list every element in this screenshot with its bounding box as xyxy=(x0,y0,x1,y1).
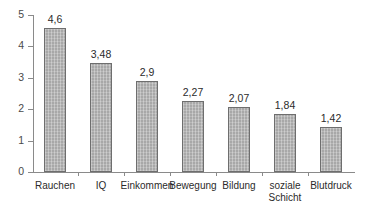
bar-rauchen xyxy=(44,28,66,172)
bar-chart: 5 4 3 2 1 0 xyxy=(0,0,366,213)
y-tick-label-4: 4 xyxy=(0,40,24,50)
y-tick-label-5: 5 xyxy=(0,9,24,19)
bar-bildung xyxy=(228,107,250,172)
x-tick-4 xyxy=(216,172,217,176)
bar-soziale-schicht xyxy=(274,114,296,172)
y-tick-label-3: 3 xyxy=(0,72,24,82)
x-tick-2 xyxy=(124,172,125,176)
bar-value-einkommen: 2,9 xyxy=(120,67,174,78)
y-tick-1: 1 xyxy=(0,141,33,142)
x-label-blutdruck: Blutdruck xyxy=(295,180,366,192)
bar-value-soziale-schicht: 1,84 xyxy=(258,100,312,111)
bar-iq xyxy=(90,63,112,172)
bar-value-iq: 3,48 xyxy=(74,49,128,60)
plot-area: 5 4 3 2 1 0 xyxy=(0,0,366,213)
y-tick-3: 3 xyxy=(0,78,33,79)
x-tick-3 xyxy=(170,172,171,176)
x-axis-line xyxy=(33,172,355,173)
y-tick-0: 0 xyxy=(0,172,33,173)
x-label-soziale-schicht-line-2: Schicht xyxy=(249,192,321,204)
bar-bewegung xyxy=(182,101,204,172)
bar-einkommen xyxy=(136,81,158,172)
x-tick-1 xyxy=(78,172,79,176)
y-axis-line xyxy=(33,15,34,173)
y-tick-label-2: 2 xyxy=(0,103,24,113)
x-tick-5 xyxy=(262,172,263,176)
bar-value-blutdruck: 1,42 xyxy=(304,113,358,124)
x-tick-6 xyxy=(308,172,309,176)
x-label-blutdruck-line-1: Blutdruck xyxy=(295,180,366,192)
y-tick-label-0: 0 xyxy=(0,166,24,176)
y-tick-2: 2 xyxy=(0,109,33,110)
bar-value-rauchen: 4,6 xyxy=(28,14,82,25)
y-tick-4: 4 xyxy=(0,46,33,47)
bar-blutdruck xyxy=(320,127,342,172)
y-tick-label-1: 1 xyxy=(0,135,24,145)
